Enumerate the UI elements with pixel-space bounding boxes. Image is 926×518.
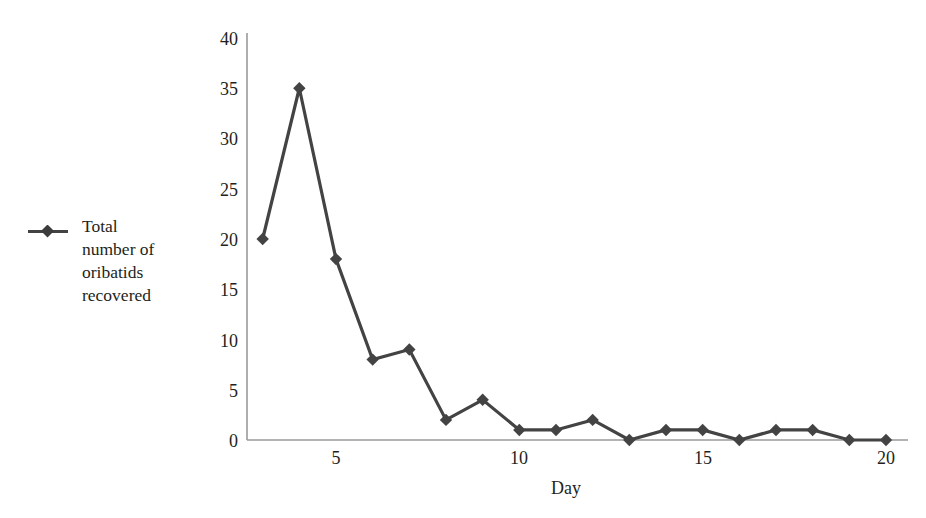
data-point-marker [770, 424, 782, 436]
data-point-marker [366, 353, 378, 365]
chart-svg [0, 0, 926, 518]
data-point-marker [660, 424, 672, 436]
data-point-marker [733, 434, 745, 446]
data-point-marker [330, 253, 342, 265]
data-point-marker [806, 424, 818, 436]
series-line [263, 88, 886, 440]
data-point-marker [550, 424, 562, 436]
data-point-marker [843, 434, 855, 446]
data-point-marker [623, 434, 635, 446]
series-markers [256, 82, 892, 446]
data-point-marker [403, 343, 415, 355]
data-point-marker [440, 414, 452, 426]
data-point-marker [880, 434, 892, 446]
data-point-marker [586, 414, 598, 426]
data-point-marker [256, 233, 268, 245]
data-point-marker [696, 424, 708, 436]
chart-figure: Total number of oribatids recovered 40 3… [0, 0, 926, 518]
data-point-marker [293, 82, 305, 94]
plot-area: 40 35 30 25 20 15 10 5 0 5 10 15 20 Day [0, 0, 926, 518]
